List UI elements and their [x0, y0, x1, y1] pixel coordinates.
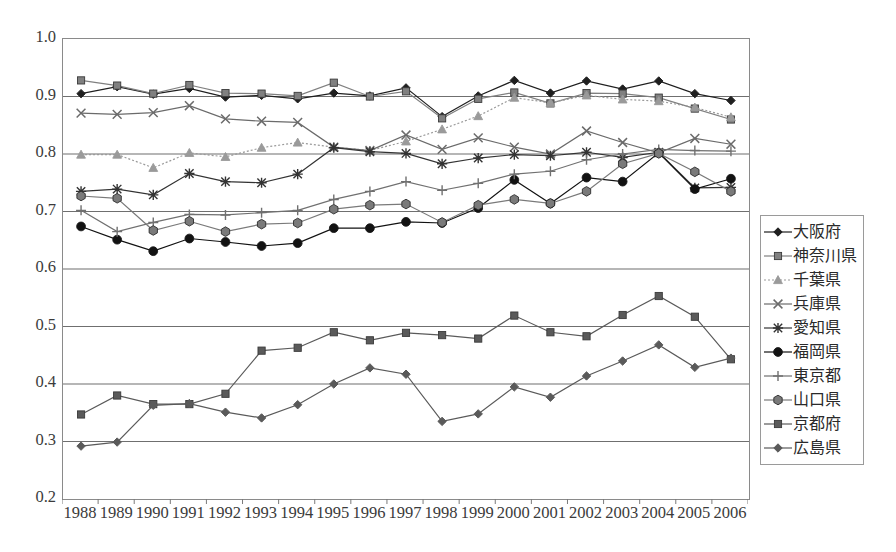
data-point-marker — [221, 227, 229, 237]
y-axis-tick-label: 0.4 — [10, 374, 56, 391]
data-point-marker — [150, 90, 157, 97]
legend-marker-star-icon — [763, 318, 793, 338]
legend-item-6[interactable]: 東京都 — [763, 364, 859, 388]
data-point-marker — [293, 169, 303, 179]
data-point-marker — [475, 335, 482, 342]
y-axis-tick-label: 0.9 — [10, 87, 56, 104]
data-point-marker — [77, 442, 85, 450]
data-point-marker — [294, 218, 302, 228]
legend-item-5[interactable]: 福岡県 — [763, 340, 859, 364]
data-point-marker — [402, 88, 409, 95]
data-point-marker — [774, 228, 782, 236]
data-point-marker — [774, 348, 783, 357]
data-point-marker — [330, 380, 338, 388]
x-tick-marks — [62, 499, 748, 507]
data-point-marker — [77, 77, 84, 84]
data-point-marker — [439, 332, 446, 339]
data-point-marker — [582, 127, 591, 136]
legend-item-0[interactable]: 大阪府 — [763, 220, 859, 244]
data-point-marker — [691, 313, 698, 320]
plot-area — [62, 38, 750, 500]
chart-legend: 大阪府神奈川県千葉県兵庫県愛知県福岡県東京都山口県京都府広島県 — [760, 215, 864, 465]
data-point-marker — [619, 311, 626, 318]
y-axis-tick-label: 0.7 — [10, 202, 56, 219]
data-point-marker — [113, 193, 121, 203]
data-point-marker — [330, 329, 337, 336]
data-point-marker — [691, 167, 699, 177]
data-point-marker — [221, 408, 229, 416]
data-point-marker — [547, 329, 554, 336]
data-point-marker — [365, 147, 375, 157]
x-axis-tick-label: 2006 — [708, 505, 752, 522]
legend-label: 京都府 — [793, 416, 841, 432]
legend-item-1[interactable]: 神奈川県 — [763, 244, 859, 268]
data-point-marker — [330, 204, 338, 214]
data-point-marker — [329, 224, 338, 233]
data-point-marker — [257, 208, 267, 218]
legend-item-2[interactable]: 千葉県 — [763, 268, 859, 292]
series-4 — [76, 143, 736, 200]
gridlines — [63, 97, 749, 442]
data-point-marker — [474, 134, 483, 143]
series-line — [81, 296, 731, 414]
data-point-marker — [149, 163, 158, 171]
data-point-marker — [221, 238, 230, 247]
chart-root: 1.00.90.80.70.60.50.40.30.2 198819891990… — [0, 0, 896, 552]
y-axis-tick-label: 0.3 — [10, 432, 56, 449]
data-point-marker — [655, 341, 663, 349]
y-axis: 1.00.90.80.70.60.50.40.30.2 — [0, 0, 56, 552]
legend-item-9[interactable]: 広島県 — [763, 436, 859, 460]
data-point-marker — [222, 89, 229, 96]
data-point-marker — [439, 115, 446, 122]
legend-marker-triangle-icon — [763, 270, 793, 290]
x-axis: 1988198919901991199219931994199519961997… — [62, 505, 750, 535]
data-point-marker — [510, 76, 518, 84]
data-point-marker — [773, 371, 783, 381]
data-point-marker — [149, 226, 157, 236]
data-point-marker — [186, 81, 193, 88]
y-axis-tick-label: 1.0 — [10, 29, 56, 46]
data-point-marker — [655, 149, 663, 159]
legend-item-4[interactable]: 愛知県 — [763, 316, 859, 340]
data-point-marker — [77, 191, 85, 201]
data-point-marker — [402, 217, 411, 226]
legend-item-8[interactable]: 京都府 — [763, 412, 859, 436]
data-point-marker — [774, 395, 782, 405]
data-point-marker — [366, 364, 374, 372]
series-line — [81, 345, 731, 446]
y-axis-tick-label: 0.6 — [10, 259, 56, 276]
data-point-marker — [366, 337, 373, 344]
data-point-marker — [509, 149, 519, 159]
data-point-marker — [474, 112, 483, 120]
data-point-marker — [510, 195, 518, 205]
data-point-marker — [293, 239, 302, 248]
data-point-marker — [220, 177, 230, 187]
legend-item-7[interactable]: 山口県 — [763, 388, 859, 412]
data-point-marker — [618, 177, 627, 186]
data-point-marker — [184, 168, 194, 178]
legend-item-3[interactable]: 兵庫県 — [763, 292, 859, 316]
data-point-marker — [293, 401, 301, 409]
data-point-marker — [655, 292, 662, 299]
data-point-marker — [691, 363, 699, 371]
plot-svg — [63, 39, 749, 499]
y-axis-tick-label: 0.2 — [10, 489, 56, 506]
data-point-marker — [148, 190, 158, 200]
data-point-marker — [582, 372, 590, 380]
data-point-marker — [258, 90, 265, 97]
data-point-marker — [473, 153, 483, 163]
legend-marker-plus-icon — [763, 366, 793, 386]
data-point-marker — [773, 323, 783, 333]
data-point-marker — [365, 186, 375, 196]
data-point-marker — [401, 177, 411, 187]
data-point-marker — [329, 194, 339, 204]
data-point-marker — [582, 173, 591, 182]
legend-marker-square-icon — [763, 414, 793, 434]
legend-label: 大阪府 — [793, 224, 841, 240]
data-point-marker — [511, 312, 518, 319]
data-point-marker — [774, 420, 781, 427]
data-point-marker — [774, 252, 781, 259]
data-point-marker — [293, 138, 302, 146]
data-point-marker — [402, 329, 409, 336]
series-line — [81, 106, 731, 154]
